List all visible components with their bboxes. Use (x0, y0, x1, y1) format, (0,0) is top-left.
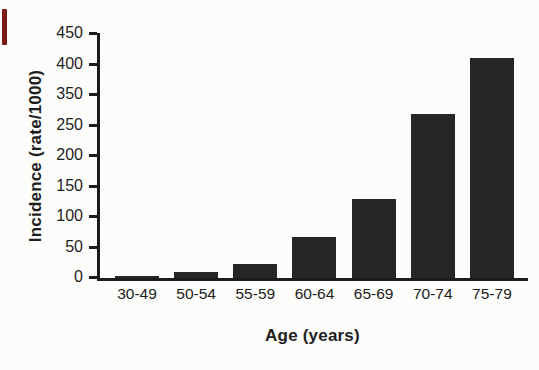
bar-50-54 (174, 272, 218, 278)
y-tick-line: 50 (89, 246, 97, 249)
bar-65-69 (352, 199, 396, 278)
y-tick-label: 350 (56, 85, 83, 103)
x-tick-label: 50-54 (165, 285, 227, 303)
bar-75-79 (470, 58, 514, 278)
plot-area: 450400350250200150100500 (97, 33, 528, 281)
bar-70-74 (411, 114, 455, 278)
scanned-bar-chart-figure: Incidence (rate/1000) 450400350250200150… (0, 0, 539, 370)
y-axis-title: Incidence (rate/1000) (26, 70, 46, 242)
red-scan-mark (2, 9, 7, 45)
bar-60-64 (292, 237, 336, 278)
x-tick-label: 30-49 (106, 285, 168, 303)
y-tick-label: 150 (56, 177, 83, 195)
y-tick-label: 100 (56, 207, 83, 225)
x-tick-label: 55-59 (224, 285, 286, 303)
x-tick-label: 75-79 (461, 285, 523, 303)
y-tick-line: 450 (89, 32, 97, 35)
x-tick-label: 65-69 (343, 285, 405, 303)
bar-30-49 (115, 276, 159, 278)
x-axis-title: Age (years) (97, 326, 528, 346)
y-tick-line: 200 (89, 154, 97, 157)
y-tick-line: 100 (89, 215, 97, 218)
bars-container (100, 33, 528, 278)
x-tick-label: 70-74 (402, 285, 464, 303)
y-tick-label: 400 (56, 55, 83, 73)
y-tick-line: 400 (89, 63, 97, 66)
y-tick-line: 0 (89, 276, 97, 279)
y-tick-line: 250 (89, 124, 97, 127)
bar-55-59 (233, 264, 277, 278)
y-tick-label: 0 (74, 268, 83, 286)
y-tick-line: 350 (89, 93, 97, 96)
x-axis-labels: 30-4950-5455-5960-6465-6970-7475-79 (100, 285, 528, 303)
y-tick-label: 450 (56, 24, 83, 42)
y-tick-label: 200 (56, 146, 83, 164)
x-tick-label: 60-64 (283, 285, 345, 303)
y-tick-label: 50 (65, 238, 83, 256)
y-tick-label: 250 (56, 116, 83, 134)
y-tick-line: 150 (89, 185, 97, 188)
